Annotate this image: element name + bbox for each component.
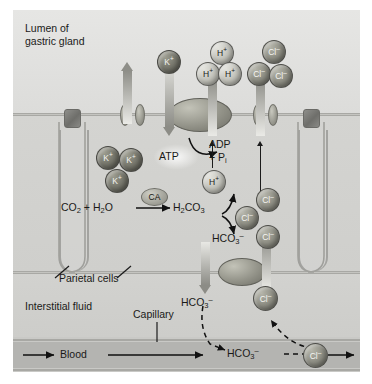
ion-chloride-cytosol-3: Cl–: [256, 225, 280, 249]
vector-overlay: [13, 10, 360, 372]
bicarbonate-efflux-arrow: [199, 242, 212, 294]
parietal-cells-label: Parietal cells: [59, 272, 119, 285]
capillary-label: Capillary: [133, 308, 174, 321]
adp-label: ADP + Pi: [209, 138, 231, 164]
reaction-product-carbonic-acid: H2CO3: [173, 201, 205, 214]
ion-potassium-cytosol-2: K+: [119, 148, 143, 172]
ion-chloride-blood: Cl–: [303, 343, 328, 368]
lumen-label-line1: Lumen of: [25, 22, 69, 34]
blood-label: Blood: [60, 348, 87, 361]
ion-potassium-cytosol-1: K+: [96, 146, 120, 170]
bicarbonate-cytosol-label: HCO3–: [212, 232, 244, 245]
hydrogen-potassium-atpase-pump: [168, 98, 232, 132]
potassium-efflux-arrow: [121, 62, 134, 124]
chloride-feed-arrow-shaft: [260, 146, 261, 192]
potassium-channel-apical-right: [135, 104, 145, 126]
adp-text: ADP: [209, 138, 231, 150]
lumen-label: Lumen of gastric gland: [25, 22, 85, 48]
chloride-channel-apical-right: [268, 104, 278, 126]
ion-chloride-lumen-2: Cl–: [247, 62, 271, 86]
bicarbonate-blood-label: HCO3–: [227, 347, 259, 360]
ion-hydrogen-cytosol: H+: [202, 170, 226, 194]
atp-label: ATP: [159, 150, 179, 163]
chloride-feed-arrow-head: [257, 141, 263, 146]
ion-hydrogen-lumen-2: H+: [196, 62, 220, 86]
reaction-substrates: CO2 + H2O: [61, 201, 113, 214]
interstitial-fluid-label: Interstitial fluid: [25, 300, 92, 313]
ion-hydrogen-lumen-3: H+: [218, 62, 242, 86]
chloride-bicarbonate-exchanger: [218, 258, 266, 286]
ion-potassium-cytosol-3: K+: [105, 169, 129, 193]
ion-chloride-interstitial: Cl–: [253, 286, 278, 311]
ion-chloride-cytosol-1: Cl–: [256, 188, 280, 212]
diagram-canvas: CA K+ H+ H+ H+ Cl– Cl– Cl– K+ K+ K+ H+ C…: [13, 10, 360, 372]
ion-potassium-lumen: K+: [157, 50, 181, 74]
lumen-label-line2: gastric gland: [25, 35, 85, 47]
ion-chloride-lumen-1: Cl–: [262, 40, 286, 64]
phosphate-text: + Pi: [209, 151, 227, 163]
ion-chloride-lumen-3: Cl–: [269, 64, 293, 88]
carbonic-anhydrase-enzyme: CA: [141, 188, 168, 206]
ion-chloride-cytosol-2: Cl–: [235, 206, 259, 230]
bicarbonate-interstitial-label: HCO3–: [181, 296, 213, 309]
figure-root: CA K+ H+ H+ H+ Cl– Cl– Cl– K+ K+ K+ H+ C…: [0, 0, 372, 384]
